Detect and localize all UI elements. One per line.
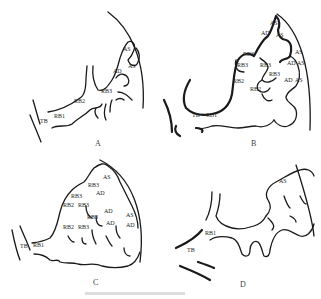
label-ad: AD [126, 222, 135, 228]
label-tb: TB [192, 112, 200, 118]
label-rb1: RB1 [33, 242, 44, 248]
label-as: AS [295, 49, 303, 55]
label-rb3: RB3 [78, 202, 89, 208]
figure-caption-bar [85, 292, 185, 295]
panel-caption-d: D [240, 281, 246, 289]
panel-caption-b: B [251, 140, 256, 148]
label-as: AS [276, 32, 284, 38]
label-ad: AD [104, 208, 113, 214]
panel-caption-c: C [93, 279, 98, 287]
label-tb: TB [187, 247, 195, 253]
label-rb3: RB3 [87, 214, 98, 220]
label-rb3: RB3 [260, 62, 271, 68]
label-rb2: RB2 [63, 202, 74, 208]
label-rb3: RB3 [101, 88, 112, 94]
label-rb2: RB2 [233, 78, 244, 84]
label-ad: AD [113, 68, 122, 74]
label-rb1: RB1 [54, 113, 65, 119]
label-rb3: RB3 [71, 193, 82, 199]
label-as: AS [128, 63, 136, 69]
label-as: AS [270, 20, 278, 26]
panel-d-drawing [176, 165, 314, 280]
label-rb2: RB2 [250, 86, 261, 92]
label-ad: AD [287, 60, 296, 66]
label-rb3: RB3 [78, 224, 89, 230]
label-rb1: RB1 [206, 112, 217, 118]
label-tb: TB [20, 243, 28, 249]
label-ad: AD [261, 30, 270, 36]
panel-caption-a: A [95, 140, 101, 148]
label-rb3: RB3 [269, 71, 280, 77]
label-ad: AD [284, 77, 293, 83]
label-rb2: RB2 [63, 224, 74, 230]
label-rb3: RB3 [88, 182, 99, 188]
label-as: AS [126, 212, 134, 218]
label-ad: AD [96, 190, 105, 196]
label-as: AS [103, 174, 111, 180]
panel-c-drawing [12, 160, 141, 268]
label-rb2: RB2 [74, 98, 85, 104]
label-rb3: RB3 [237, 62, 248, 68]
label-tb: TB [40, 118, 48, 124]
diagram-drawing [0, 0, 321, 299]
panel-b-drawing [164, 14, 310, 136]
label-rb3: RB3 [243, 51, 254, 57]
label-as: AS [297, 60, 305, 66]
label-as: AS [295, 77, 303, 83]
airway-diagram-figure: TB RB1 RB2 RB3 AD AS AS A AS AD AS RB3 R… [0, 0, 321, 299]
label-as: AS [123, 46, 131, 52]
label-rb1: RB1 [205, 230, 216, 236]
label-as: AS [279, 178, 287, 184]
label-ad: AD [106, 220, 115, 226]
